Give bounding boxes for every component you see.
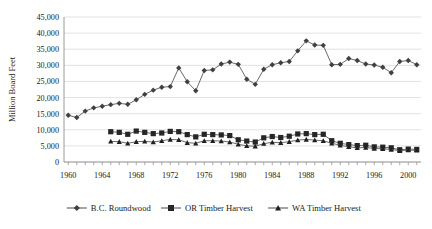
y-tick-label: 10,000 [36, 126, 59, 135]
chart-container: 45,00040,00035,00030,00025,00020,00015,0… [0, 0, 432, 229]
y-tick-label: 0 [55, 158, 59, 167]
y-tick-label: 15,000 [36, 110, 59, 119]
data-point-marker [202, 132, 207, 137]
x-tick-label: 1984 [264, 171, 280, 180]
legend-label: OR Timber Harvest [185, 203, 253, 213]
y-tick-label: 40,000 [36, 29, 59, 38]
data-point-marker [321, 132, 326, 137]
data-point-marker [312, 132, 317, 137]
y-axis-title: Million Board Feet [7, 56, 17, 122]
legend-label: B.C. Roundwood [91, 203, 152, 213]
data-point-marker [176, 129, 181, 134]
data-point-marker [193, 134, 198, 139]
x-tick-label: 1992 [332, 171, 348, 180]
y-tick-label: 5,000 [41, 142, 59, 151]
chart-legend: B.C. RoundwoodOR Timber HarvestWA Timber… [67, 203, 362, 213]
x-tick-label: 1996 [366, 171, 382, 180]
x-tick-label: 1980 [230, 171, 246, 180]
data-point-marker [185, 132, 190, 137]
data-point-marker [287, 134, 292, 139]
data-point-marker [108, 129, 113, 134]
x-tick-label: 1960 [60, 171, 76, 180]
y-tick-label: 20,000 [36, 94, 59, 103]
data-point-marker [168, 129, 173, 134]
y-tick-label: 25,000 [36, 77, 59, 86]
data-point-marker [304, 131, 309, 136]
data-point-marker [278, 135, 283, 140]
y-tick-label: 35,000 [36, 45, 59, 54]
data-point-marker [227, 133, 232, 138]
x-tick-label: 1968 [128, 171, 144, 180]
y-axis-title-text: Million Board Feet [7, 56, 17, 122]
data-point-marker [244, 138, 249, 143]
legend-marker-square-icon [168, 205, 174, 211]
data-point-marker [261, 135, 266, 140]
x-tick-label: 1964 [94, 171, 110, 180]
x-tick-label: 1972 [162, 171, 178, 180]
data-point-marker [219, 132, 224, 137]
data-point-marker [142, 130, 147, 135]
x-tick-label: 1976 [196, 171, 212, 180]
x-tick-label: 2000 [400, 171, 416, 180]
data-point-marker [210, 132, 215, 137]
plot-background [0, 0, 432, 229]
data-point-marker [270, 134, 275, 139]
data-point-marker [134, 128, 139, 133]
legend-label: WA Timber Harvest [292, 203, 361, 213]
data-point-marker [295, 131, 300, 136]
y-tick-label: 30,000 [36, 61, 59, 70]
data-point-marker [236, 137, 241, 142]
line-chart: 45,00040,00035,00030,00025,00020,00015,0… [0, 0, 432, 229]
data-point-marker [159, 130, 164, 135]
data-point-marker [117, 130, 122, 135]
x-tick-label: 1988 [298, 171, 314, 180]
y-tick-label: 45,000 [36, 13, 59, 22]
data-point-marker [151, 131, 156, 136]
data-point-marker [125, 132, 130, 137]
